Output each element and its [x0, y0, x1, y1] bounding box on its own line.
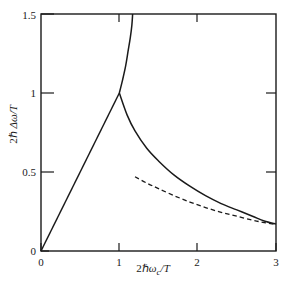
- y-axis-label-main: Δω/T: [7, 105, 19, 128]
- x-axis-ticks: [41, 14, 276, 251]
- y-axis-ticks: [41, 14, 276, 251]
- yticklabel-1.5: 1.5: [22, 9, 36, 21]
- x-axis-label: 2ℏωc/T: [113, 262, 193, 277]
- x-axis-label-prefix: 2ℏ: [136, 262, 149, 274]
- data-curves: [41, 14, 276, 251]
- y-axis-label-prefix: 2ℏ: [7, 129, 19, 144]
- xticklabel-0: 0: [38, 256, 44, 268]
- plot-svg: 0 1 2 3 0 0.5 1 1.5: [0, 0, 294, 287]
- curve-upper-branch: [119, 14, 132, 93]
- x-axis-label-omega: ω: [149, 262, 157, 274]
- plot-frame: [41, 14, 276, 251]
- x-axis-label-suffix: /T: [161, 262, 170, 274]
- y-tick-labels: 0 0.5 1 1.5: [22, 9, 36, 257]
- y-axis-label: 2ℏ Δω/T: [7, 90, 20, 160]
- yticklabel-0.5: 0.5: [22, 166, 36, 178]
- xticklabel-3: 3: [273, 256, 279, 268]
- figure-container: 0 1 2 3 0 0.5 1 1.5 2ℏ Δω/T 2ℏωc/T: [0, 0, 294, 287]
- yticklabel-1: 1: [31, 87, 37, 99]
- yticklabel-0: 0: [31, 245, 37, 257]
- xticklabel-2: 2: [194, 256, 200, 268]
